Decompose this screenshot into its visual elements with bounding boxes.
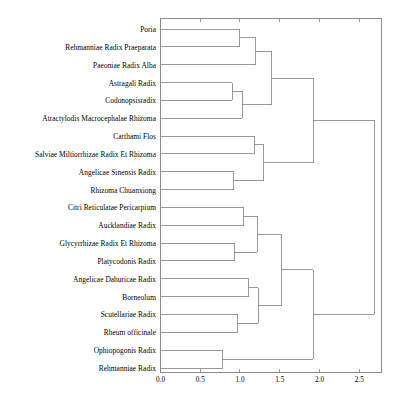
x-tick-label: 2.0 xyxy=(315,376,324,384)
x-tick-label: 0.0 xyxy=(156,376,165,384)
dendrogram-figure: PoriaRehmanniae Radix PraeparataPaeoniae… xyxy=(0,0,400,401)
x-tick-label: 1.0 xyxy=(235,376,244,384)
dendrogram-tree xyxy=(0,0,400,401)
plot-frame xyxy=(161,19,382,373)
dendrogram-plot-area xyxy=(0,0,400,401)
x-tick-label: 1.5 xyxy=(275,376,284,384)
x-tick-label: 2.5 xyxy=(355,376,364,384)
x-tick-label: 0.5 xyxy=(196,376,205,384)
